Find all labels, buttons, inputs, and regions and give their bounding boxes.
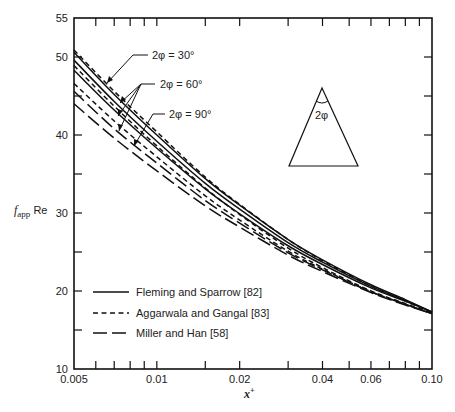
curve bbox=[74, 52, 432, 312]
svg-text:2φ: 2φ bbox=[315, 109, 328, 121]
chart: 0.0050.010.020.040.060.10 102030405055 f… bbox=[0, 0, 455, 412]
x-tick-label: 0.01 bbox=[146, 373, 167, 385]
inset-triangle: 2φ bbox=[289, 88, 358, 166]
curve bbox=[74, 60, 432, 312]
y-tick-label: 55 bbox=[56, 12, 68, 24]
legend: Fleming and Sparrow [82] Aggarwala and G… bbox=[93, 286, 269, 339]
curve bbox=[74, 50, 432, 313]
y-tick-label: 10 bbox=[56, 363, 68, 375]
legend-entry-fleming: Fleming and Sparrow [82] bbox=[136, 286, 262, 298]
y-axis-ticks: 102030405055 bbox=[56, 12, 432, 375]
y-tick-label: 40 bbox=[56, 129, 68, 141]
x-tick-label: 0.06 bbox=[360, 373, 381, 385]
x-tick-label: 0.10 bbox=[421, 373, 442, 385]
svg-text:2φ = 90°: 2φ = 90° bbox=[169, 108, 211, 120]
curve bbox=[74, 70, 432, 312]
y-tick-label: 50 bbox=[56, 51, 68, 63]
x-tick-label: 0.04 bbox=[312, 373, 333, 385]
svg-text:2φ = 60°: 2φ = 60° bbox=[160, 78, 202, 90]
y-tick-label: 20 bbox=[56, 285, 68, 297]
annotation-60deg: 2φ = 60° bbox=[118, 78, 202, 131]
curve bbox=[74, 84, 432, 314]
data-curves bbox=[74, 50, 432, 314]
curve bbox=[74, 104, 432, 314]
y-tick-label: 30 bbox=[56, 207, 68, 219]
annotation-90deg: 2φ = 90° bbox=[134, 108, 211, 146]
x-axis-ticks: 0.0050.010.020.040.060.10 bbox=[60, 18, 442, 385]
curve bbox=[74, 91, 432, 313]
legend-entry-aggarwala: Aggarwala and Gangal [83] bbox=[136, 307, 269, 319]
x-tick-label: 0.02 bbox=[229, 373, 250, 385]
legend-entry-miller: Miller and Han [58] bbox=[136, 327, 228, 339]
x-axis-label: x+ bbox=[243, 386, 255, 401]
y-axis-label: fapp Re bbox=[14, 203, 47, 219]
svg-text:2φ = 30°: 2φ = 30° bbox=[152, 49, 194, 61]
